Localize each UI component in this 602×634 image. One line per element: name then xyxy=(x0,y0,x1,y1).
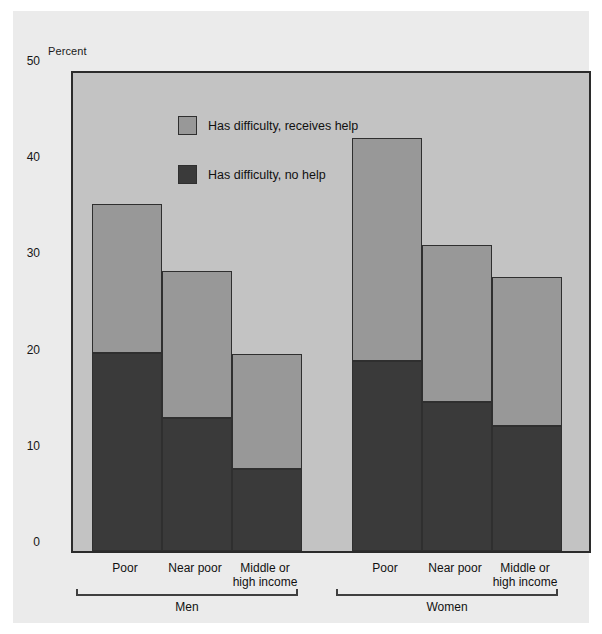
category-label-line1: Poor xyxy=(112,561,137,575)
category-label-women-middle-high: Middle or high income xyxy=(490,561,560,589)
bar-segment-receives-help[interactable] xyxy=(422,245,492,402)
y-tick-0: 0 xyxy=(0,535,40,549)
group-tick-men-left xyxy=(76,589,78,596)
bar-segment-receives-help[interactable] xyxy=(232,354,302,469)
legend-swatch-no-help-icon xyxy=(178,165,197,184)
figure-body: Percent 50 40 30 20 10 0 Has difficulty,… xyxy=(13,11,589,623)
category-label-line1: Poor xyxy=(372,561,397,575)
category-label-line1: Middle or xyxy=(240,561,289,575)
legend-item-no-help: Has difficulty, no help xyxy=(178,165,326,184)
category-label-line1: Middle or xyxy=(500,561,549,575)
category-label-men-near-poor: Near poor xyxy=(160,561,230,575)
group-rule-men xyxy=(76,594,298,596)
group-tick-women-right xyxy=(556,589,558,596)
y-tick-30: 30 xyxy=(0,246,40,260)
bar-men-poor[interactable] xyxy=(92,204,162,551)
plot-area: Has difficulty, receives help Has diffic… xyxy=(71,71,591,553)
legend-label-receives-help: Has difficulty, receives help xyxy=(208,119,358,133)
bar-segment-no-help[interactable] xyxy=(492,426,562,551)
legend-label-no-help: Has difficulty, no help xyxy=(208,168,326,182)
category-label-men-middle-high: Middle or high income xyxy=(230,561,300,589)
bar-segment-receives-help[interactable] xyxy=(92,204,162,353)
y-tick-10: 10 xyxy=(0,439,40,453)
group-tick-women-left xyxy=(336,589,338,596)
bar-men-middle-high[interactable] xyxy=(232,354,302,551)
category-label-line1: Near poor xyxy=(168,561,221,575)
bar-women-poor[interactable] xyxy=(352,138,422,551)
bar-segment-no-help[interactable] xyxy=(232,469,302,551)
group-label-men: Men xyxy=(76,600,298,614)
bar-segment-no-help[interactable] xyxy=(422,402,492,551)
category-label-men-poor: Poor xyxy=(90,561,160,575)
y-tick-50: 50 xyxy=(0,54,40,68)
group-tick-men-right xyxy=(296,589,298,596)
category-label-women-near-poor: Near poor xyxy=(420,561,490,575)
legend-swatch-receives-help-icon xyxy=(178,116,197,135)
category-label-line2: high income xyxy=(493,575,558,589)
category-label-line2: high income xyxy=(233,575,298,589)
category-label-line1: Near poor xyxy=(428,561,481,575)
bar-women-middle-high[interactable] xyxy=(492,277,562,551)
y-tick-20: 20 xyxy=(0,343,40,357)
group-label-women: Women xyxy=(336,600,558,614)
bar-segment-receives-help[interactable] xyxy=(492,277,562,426)
bar-segment-no-help[interactable] xyxy=(162,418,232,551)
bar-segment-receives-help[interactable] xyxy=(162,271,232,418)
cut-off-title xyxy=(0,0,602,11)
chart-figure: Percent 50 40 30 20 10 0 Has difficulty,… xyxy=(0,0,602,634)
legend-item-receives-help: Has difficulty, receives help xyxy=(178,116,358,135)
bar-segment-no-help[interactable] xyxy=(352,361,422,551)
bar-women-near-poor[interactable] xyxy=(422,245,492,551)
category-label-women-poor: Poor xyxy=(350,561,420,575)
group-rule-women xyxy=(336,594,558,596)
y-tick-40: 40 xyxy=(0,150,40,164)
bar-segment-no-help[interactable] xyxy=(92,353,162,551)
bar-men-near-poor[interactable] xyxy=(162,271,232,551)
bar-segment-receives-help[interactable] xyxy=(352,138,422,361)
y-axis-title: Percent xyxy=(48,45,87,57)
